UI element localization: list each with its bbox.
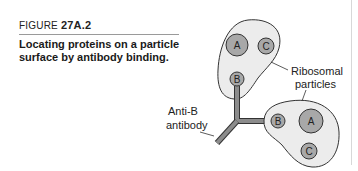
svg-text:A: A <box>308 116 315 127</box>
ribosomal-label-line-2: particles <box>295 78 336 90</box>
antibody-label-line-1: Anti-B <box>168 105 198 117</box>
antibody-binding-diagram: A C B A C B Ribosomal particles Anti-B a… <box>0 0 358 171</box>
svg-text:C: C <box>305 146 312 157</box>
lower-ribosomal-particle: A C B <box>264 100 339 167</box>
svg-text:B: B <box>275 116 282 127</box>
svg-text:B: B <box>234 74 241 85</box>
ribosomal-leader-upper <box>271 62 288 70</box>
upper-ribosomal-particle: A C <box>218 20 280 99</box>
antibody-leader <box>200 132 214 136</box>
svg-text:C: C <box>262 41 269 52</box>
antibody-label-line-2: antibody <box>166 119 208 131</box>
ribosomal-leader-lower <box>302 90 306 101</box>
ribosomal-label-line-1: Ribosomal <box>291 65 343 77</box>
svg-text:A: A <box>234 40 241 51</box>
